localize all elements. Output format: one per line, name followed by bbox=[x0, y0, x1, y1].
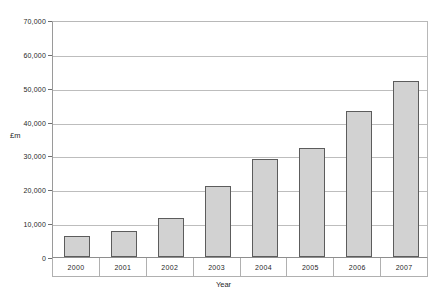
plot-area bbox=[52, 21, 428, 258]
y-axis-tick-label: 0 bbox=[42, 255, 46, 262]
x-axis-tick-label: 2000 bbox=[52, 258, 99, 276]
bar bbox=[158, 218, 184, 257]
x-axis-tick-label: 2006 bbox=[333, 258, 380, 276]
bar bbox=[111, 231, 137, 257]
y-axis-tick-label: 20,000 bbox=[23, 187, 46, 194]
x-axis-labels: 20002001200220032004200520062007 bbox=[52, 258, 428, 277]
gridline bbox=[53, 90, 427, 91]
bar-chart: £m 010,00020,00030,00040,00050,00060,000… bbox=[0, 0, 447, 297]
x-axis-tick-label: 2004 bbox=[240, 258, 287, 276]
bar bbox=[205, 186, 231, 257]
gridline bbox=[53, 56, 427, 57]
bar bbox=[346, 111, 372, 257]
y-axis-tick-label: 30,000 bbox=[23, 153, 46, 160]
bar bbox=[252, 159, 278, 257]
x-axis-tick-label: 2005 bbox=[286, 258, 333, 276]
y-axis-tick-label: 40,000 bbox=[23, 119, 46, 126]
bar bbox=[299, 148, 325, 257]
y-axis-tick-label: 10,000 bbox=[23, 221, 46, 228]
bar bbox=[393, 81, 419, 257]
y-axis-tick-label: 50,000 bbox=[23, 85, 46, 92]
y-axis-title: £m bbox=[10, 131, 20, 140]
x-axis-title: Year bbox=[0, 280, 447, 289]
x-axis-tick-label: 2001 bbox=[99, 258, 146, 276]
x-axis-tick-label: 2002 bbox=[146, 258, 193, 276]
y-axis-tick-label: 70,000 bbox=[23, 18, 46, 25]
x-axis-tick-label: 2007 bbox=[380, 258, 427, 276]
x-axis-tick-label: 2003 bbox=[193, 258, 240, 276]
bar bbox=[64, 236, 90, 257]
y-axis-tick-label: 60,000 bbox=[23, 51, 46, 58]
